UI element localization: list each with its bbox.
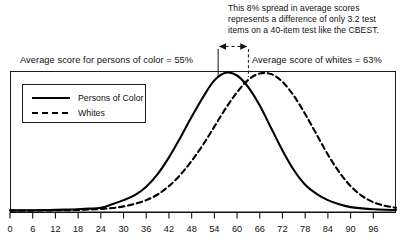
legend-item: Persons of Color [23, 90, 145, 105]
x-tick-label: 30 [118, 224, 128, 234]
x-axis [0, 205, 411, 221]
legend-item: Whites [23, 105, 145, 120]
x-tick-label: 6 [30, 224, 35, 234]
x-tick-label: 96 [368, 224, 378, 234]
x-tick-label: 72 [277, 224, 287, 234]
callout-annotation: This 8% spread in average scores represe… [228, 3, 410, 37]
mean-label-persons-of-color: Average score for persons of color = 55% [20, 55, 193, 66]
x-tick-label: 48 [187, 224, 197, 234]
solid-line-icon [32, 93, 70, 103]
x-tick-label: 78 [300, 224, 310, 234]
x-tick-label: 66 [255, 224, 265, 234]
chart-legend: Persons of ColorWhites [22, 84, 146, 123]
legend-item-label: Whites [78, 108, 105, 118]
x-tick-label: 42 [164, 224, 174, 234]
x-tick-label: 12 [50, 224, 60, 234]
legend-item-label: Persons of Color [78, 93, 144, 103]
mean-label-whites: Average score of whites = 63% [252, 55, 382, 66]
x-tick-label: 54 [209, 224, 219, 234]
x-tick-label: 24 [96, 224, 106, 234]
dashed-line-icon [32, 108, 70, 118]
x-tick-label: 18 [73, 224, 83, 234]
chart-root: This 8% spread in average scores represe… [0, 0, 411, 244]
x-tick-label: 0 [7, 224, 12, 234]
x-tick-label: 84 [323, 224, 333, 234]
x-tick-label: 60 [232, 224, 242, 234]
x-tick-label: 36 [141, 224, 151, 234]
spread-arrow-icon [218, 39, 248, 55]
x-tick-label: 90 [345, 224, 355, 234]
